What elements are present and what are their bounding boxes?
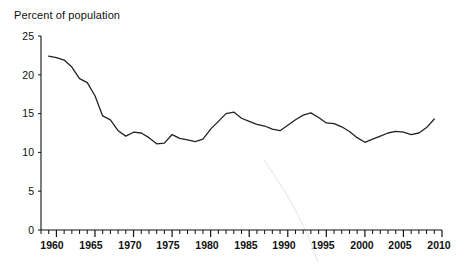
data-series-line xyxy=(49,56,435,144)
plot-svg xyxy=(0,0,463,269)
poverty-rate-line-chart: Percent of population 25 20 15 10 5 0 19… xyxy=(0,0,463,269)
background-artifact-stroke xyxy=(264,160,318,262)
axes-lines xyxy=(41,36,442,230)
axis-ticks xyxy=(38,36,442,237)
plot-area xyxy=(0,0,463,269)
